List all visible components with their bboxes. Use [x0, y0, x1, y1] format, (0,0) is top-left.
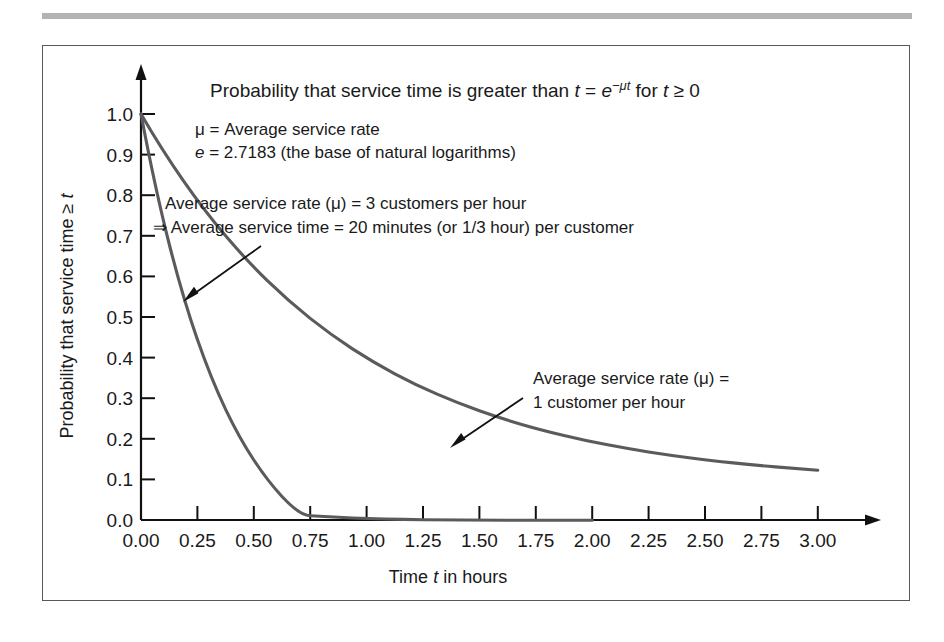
chart-canvas: 1.0 0.9 0.8 0.7 0.6 0.5 0.4	[43, 46, 909, 600]
figure-frame: 1.0 0.9 0.8 0.7 0.6 0.5 0.4	[42, 45, 910, 601]
annotation-mu1-line1: Average service rate (μ) =	[533, 369, 729, 388]
x-tick-label: 1.25	[405, 530, 442, 551]
y-tick-label: 0.4	[107, 348, 134, 369]
y-tick-label: 0.8	[107, 185, 133, 206]
x-tick-group: 0.00 0.25 0.50 0.75 1.00 1.25 1.50 1.75 …	[123, 506, 837, 551]
x-tick-label: 0.50	[235, 530, 272, 551]
x-tick-label: 0.25	[179, 530, 216, 551]
note-text-e: = 2.7183 (the base of natural logarithms…	[204, 143, 515, 162]
annotation-mu1-line2: 1 customer per hour	[533, 393, 685, 412]
chart-title: Probability that service time is greater…	[210, 78, 700, 101]
x-tick-label: 2.50	[687, 530, 724, 551]
x-tick-label: 2.75	[743, 530, 780, 551]
y-tick-label: 0.6	[107, 266, 133, 287]
y-tick-label: 0.7	[107, 226, 133, 247]
note-line-e: e = 2.7183 (the base of natural logarith…	[195, 143, 516, 162]
definition-notes: μ = Average service rate e = 2.7183 (the…	[195, 120, 516, 162]
title-e: e	[601, 80, 612, 101]
y-tick-label: 1.0	[107, 104, 133, 125]
y-tick-label: 0.1	[107, 469, 133, 490]
x-tick-label: 1.75	[517, 530, 554, 551]
x-tick-label: 1.00	[348, 530, 385, 551]
annotation-mu3-line1: Average service rate (μ) = 3 customers p…	[165, 194, 527, 213]
y-axis-label-pre: Probability that service time ≥	[57, 199, 77, 439]
note-symbol-mu: μ	[195, 120, 205, 139]
top-decorative-rule	[42, 13, 912, 19]
curve-mu-1	[141, 114, 818, 470]
annotation-mu3-line2: ⇒ Average service time = 20 minutes (or …	[153, 218, 634, 237]
title-tail: for	[630, 80, 663, 101]
x-tick-label: 1.50	[461, 530, 498, 551]
x-tick-label: 0.00	[123, 530, 160, 551]
x-tick-label: 2.00	[574, 530, 611, 551]
y-tick-label: 0.3	[107, 388, 133, 409]
x-tick-label: 3.00	[799, 530, 836, 551]
note-symbol-e: e	[195, 143, 204, 162]
title-eq: =	[580, 80, 602, 101]
annotation-mu3: Average service rate (μ) = 3 customers p…	[153, 194, 634, 302]
y-tick-label: 0.5	[107, 307, 133, 328]
y-tick-label: 0.2	[107, 429, 133, 450]
x-axis-label-post: in hours	[438, 567, 507, 587]
figure-page: 1.0 0.9 0.8 0.7 0.6 0.5 0.4	[0, 0, 944, 642]
x-tick-label: 0.75	[292, 530, 329, 551]
title-ge0: ≥ 0	[668, 80, 700, 101]
curve-mu-3	[141, 114, 592, 520]
y-tick-label: 0.9	[107, 145, 133, 166]
title-exponent: −μt	[612, 78, 632, 93]
x-tick-label: 2.25	[630, 530, 667, 551]
y-axis-label: Probability that service time ≥ t	[57, 193, 77, 439]
x-axis-label-pre: Time	[389, 567, 433, 587]
y-axis-label-var: t	[57, 193, 77, 199]
annotation-mu3-arrow	[183, 246, 261, 302]
note-text-mu: = Average service rate	[205, 120, 380, 139]
title-lead: Probability that service time is greater…	[210, 80, 574, 101]
y-tick-group: 1.0 0.9 0.8 0.7 0.6 0.5 0.4	[107, 104, 155, 531]
x-axis-label: Time t in hours	[389, 567, 507, 587]
annotation-mu1: Average service rate (μ) = 1 customer pe…	[450, 369, 729, 448]
note-line-mu: μ = Average service rate	[195, 120, 380, 139]
y-tick-label: 0.0	[107, 510, 133, 531]
